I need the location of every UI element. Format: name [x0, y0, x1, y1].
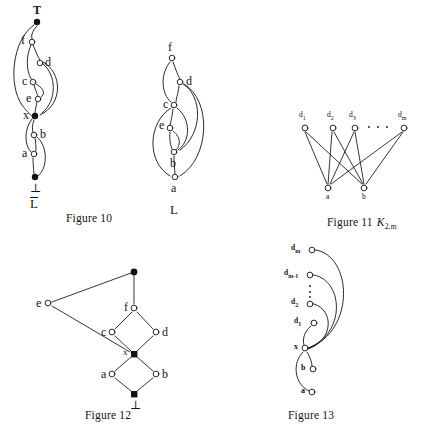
- node-label-figure12-b: b: [162, 367, 168, 382]
- node-figure10-f: [29, 39, 35, 45]
- figure-11-ellipsis: [368, 126, 388, 128]
- node-label-figure10-b: b: [40, 127, 46, 142]
- node-figure11-d1: [302, 125, 308, 131]
- node-figure10-b: [31, 132, 37, 138]
- node-figure12-d: [153, 329, 159, 335]
- node-figureL-b: [171, 149, 177, 155]
- node-figureL-c: [171, 102, 177, 108]
- node-label-figure10-bottom: ⊥: [30, 181, 41, 196]
- node-label-figureL-a: a: [171, 181, 176, 196]
- caption-figure-12: Figure 12: [85, 409, 131, 421]
- figure-nodes: [29, 19, 407, 398]
- node-figure12-T: [131, 269, 138, 276]
- node-figureL-a: [172, 174, 178, 180]
- node-label-figure13-dm1: dm-1: [284, 268, 298, 279]
- node-label-sub: 1: [303, 115, 306, 121]
- node-label-sub: m: [295, 248, 300, 254]
- node-label-figure11-a: a: [326, 192, 329, 201]
- node-figure11-a: [325, 185, 331, 191]
- node-label-figure10-x: x: [23, 108, 29, 123]
- node-figureL-e: [167, 125, 173, 131]
- node-figure10-x: [32, 113, 38, 119]
- node-label-figureL-c: c: [163, 97, 168, 112]
- node-label-figure10-e: e: [26, 91, 31, 106]
- node-label-sub: 3: [353, 115, 356, 121]
- node-figureL-f: [169, 55, 175, 61]
- node-figure11-d2: [330, 125, 336, 131]
- diagram-label-figure10: L: [30, 196, 38, 212]
- node-label-figure12-bottom: ⊥: [130, 398, 141, 413]
- node-label-figure12-c: c: [101, 325, 106, 340]
- node-label-sub: 2: [295, 302, 298, 308]
- node-figure10-a: [31, 151, 37, 157]
- node-label-figure13-d1: d1: [294, 316, 301, 327]
- node-label-figure13-x: x: [294, 342, 298, 351]
- caption-figure-10: Figure 10: [66, 212, 112, 224]
- overline-L: L: [30, 196, 38, 212]
- node-label-figure12-a: a: [101, 367, 106, 382]
- node-label-figureL-b: b: [170, 156, 176, 171]
- node-figure12-bottom: [131, 391, 137, 397]
- node-figure10-bottom: [32, 174, 38, 180]
- node-figure13-x: [302, 345, 308, 351]
- node-label-sub: 2: [331, 115, 334, 121]
- node-figure13-a: [309, 389, 315, 395]
- diagram-label-figureL: L: [170, 202, 178, 218]
- node-label-figure12-f: f: [124, 300, 128, 315]
- node-label-figure13-b: b: [301, 363, 305, 372]
- caption-figure-11: Figure 11K2,m: [327, 216, 397, 231]
- node-label-figureL-e: e: [159, 118, 164, 133]
- figure-page: T f d c e x b a ⊥ L f d c e b a L d1 d2 …: [0, 0, 423, 436]
- caption-figure-11-sub: 2,m: [385, 222, 397, 231]
- node-label-figure12-x: x: [123, 347, 128, 357]
- node-figure13-dm1: [307, 272, 313, 278]
- caption-figure-11-math: K: [373, 216, 385, 228]
- node-label-figureL-d: d: [186, 74, 192, 89]
- node-label-figure11-d3: d3: [349, 110, 356, 121]
- node-figure13-b: [310, 366, 316, 372]
- node-label-figure11-dm: dm: [398, 110, 406, 121]
- node-figure12-e: [45, 300, 51, 306]
- node-label-figure12-e: e: [36, 296, 41, 311]
- node-label-figure13-d2: d2: [291, 297, 298, 308]
- node-figureL-d: [177, 79, 183, 85]
- node-figure12-f: [131, 305, 137, 311]
- node-label-figure13-a: a: [301, 386, 305, 395]
- node-figure10-c: [30, 79, 36, 85]
- node-figure10-d: [37, 60, 43, 66]
- caption-figure-11-text: Figure 11: [327, 216, 373, 228]
- node-label-sub: m-1: [288, 273, 298, 279]
- node-label-figure10-c: c: [22, 74, 27, 89]
- figure-11-edges: [305, 132, 403, 184]
- node-label-sub: m: [402, 115, 407, 121]
- node-figure12-a: [109, 371, 115, 377]
- node-label-figure10-a: a: [22, 146, 27, 161]
- figure-13-ellipsis: [309, 285, 311, 298]
- node-figure13-dm: [309, 247, 315, 253]
- node-label-figureL-f: f: [168, 40, 172, 55]
- node-label-figure12-d: d: [162, 325, 168, 340]
- node-label-figure11-d1: d1: [299, 110, 306, 121]
- node-label-figure11-d2: d2: [327, 110, 334, 121]
- node-label-figure10-d: d: [45, 55, 51, 70]
- node-label-figure10-T: T: [33, 3, 41, 18]
- node-figure13-d1: [311, 320, 317, 326]
- node-figure10-T: [34, 19, 40, 25]
- node-figure11-dm: [401, 125, 407, 131]
- node-figure12-c: [109, 329, 115, 335]
- node-label-figure13-dm: dm: [291, 243, 300, 254]
- node-label-sub: 1: [298, 321, 301, 327]
- node-figure10-e: [35, 96, 41, 102]
- node-figure12-b: [153, 371, 159, 377]
- node-label-figure10-f: f: [21, 33, 25, 48]
- caption-figure-13: Figure 13: [288, 409, 334, 421]
- node-figure11-d3: [352, 125, 358, 131]
- node-figure13-d2: [307, 301, 313, 307]
- node-figure11-b: [361, 185, 367, 191]
- node-label-figure11-b: b: [362, 192, 366, 201]
- node-figure12-x: [131, 351, 137, 357]
